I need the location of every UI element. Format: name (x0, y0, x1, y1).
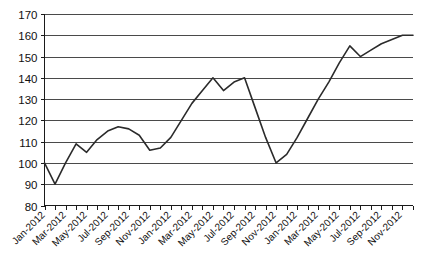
gridlines (45, 15, 414, 185)
y-tick-label: 100 (18, 158, 37, 170)
y-tick-label: 160 (18, 30, 37, 42)
y-tick-label: 80 (25, 201, 38, 213)
y-tick-label: 140 (18, 73, 37, 85)
y-tick-label: 120 (18, 115, 37, 127)
y-tick-label: 170 (18, 9, 37, 21)
y-tick-label: 90 (25, 179, 38, 191)
line-chart: 8090100110120130140150160170 Jan-2012Mar… (0, 0, 425, 274)
y-tick-label: 130 (18, 94, 37, 106)
y-axis-labels: 8090100110120130140150160170 (18, 9, 37, 213)
x-axis-labels: Jan-2012Mar-2012May-2012Jul-2012Sep-2012… (10, 209, 405, 249)
chart-canvas: 8090100110120130140150160170 Jan-2012Mar… (0, 0, 425, 274)
y-tick-label: 110 (19, 137, 37, 149)
y-tick-label: 150 (18, 52, 37, 64)
